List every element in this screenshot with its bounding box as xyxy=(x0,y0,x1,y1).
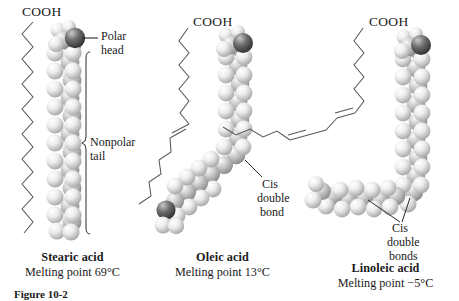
linoleic-cooh-label: COOH xyxy=(369,14,408,30)
stearic-skeletal-chain xyxy=(22,22,33,233)
figure-caption: Figure 10-2 xyxy=(14,288,68,301)
stearic-acid-melting-point: Melting point 69°C xyxy=(0,265,145,279)
nonpolar-tail-label-line2: tail xyxy=(90,150,105,164)
stearic-acid-name: Stearic acid xyxy=(0,250,145,264)
stearic-cooh-label: COOH xyxy=(22,4,61,20)
oleic-cooh-label: COOH xyxy=(193,14,232,30)
oleic-cis-label-line1: Cis xyxy=(262,178,278,192)
linoleic-cis-label-line2: double xyxy=(387,236,420,250)
linoleic-space-filling-model xyxy=(304,27,431,217)
nonpolar-tail-label-line1: Nonpolar xyxy=(90,136,135,150)
oleic-cis-label-line2: double xyxy=(257,192,290,206)
linoleic-cis-label-line1: Cis xyxy=(392,222,408,236)
nonpolar-tail-bracket xyxy=(82,52,90,234)
polar-head-label-line1: Polar xyxy=(101,30,126,44)
oleic-space-filling-model xyxy=(154,25,253,234)
linoleic-acid-melting-point: Melting point −5°C xyxy=(312,276,459,290)
oleic-cis-bond-leader-line xyxy=(245,160,262,177)
linoleic-acid-name: Linoleic acid xyxy=(312,261,459,275)
oleic-cis-label-line3: bond xyxy=(260,206,284,220)
oleic-acid-name: Oleic acid xyxy=(150,250,295,264)
stearic-space-filling-model xyxy=(46,20,85,241)
polar-head-label-line2: head xyxy=(101,44,124,58)
oleic-acid-melting-point: Melting point 13°C xyxy=(150,265,295,279)
